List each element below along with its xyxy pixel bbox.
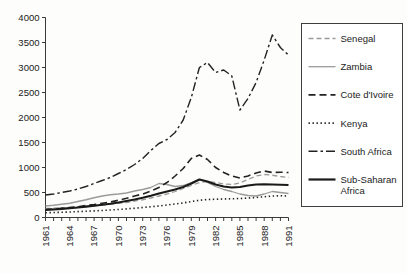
x-tick-label: 1979 bbox=[186, 226, 197, 247]
x-tick-label: 1976 bbox=[161, 226, 172, 247]
x-axis-tick-labels: 1961196419671970197319761979198219851988… bbox=[40, 226, 294, 247]
x-tick-label: 1967 bbox=[88, 226, 99, 247]
y-tick-label: 1000 bbox=[18, 162, 39, 173]
chart-legend: SenegalZambiaCote d'IvoireKenyaSouth Afr… bbox=[302, 24, 403, 207]
series-line bbox=[46, 196, 289, 213]
legend-label: Senegal bbox=[341, 33, 376, 44]
x-tick-label: 1985 bbox=[234, 226, 245, 247]
legend-label: South Africa bbox=[341, 146, 393, 157]
y-tick-label: 2000 bbox=[18, 112, 39, 123]
x-tick-label: 1973 bbox=[137, 226, 148, 247]
x-tick-label: 1991 bbox=[283, 226, 294, 247]
x-tick-label: 1982 bbox=[210, 226, 221, 247]
y-tick-label: 1500 bbox=[18, 137, 39, 148]
y-axis-tick-labels: 05001000150020002500300035004000 bbox=[18, 12, 39, 223]
series-line bbox=[46, 180, 289, 207]
y-tick-label: 2500 bbox=[18, 87, 39, 98]
y-tick-label: 3000 bbox=[18, 62, 39, 73]
data-series-layer bbox=[46, 35, 289, 213]
chart-axes bbox=[42, 18, 289, 222]
chart-figure: 05001000150020002500300035004000 1961196… bbox=[0, 0, 407, 273]
x-tick-label: 1988 bbox=[259, 226, 270, 247]
line-chart: 05001000150020002500300035004000 1961196… bbox=[0, 0, 407, 273]
y-tick-label: 3500 bbox=[18, 37, 39, 48]
x-tick-label: 1961 bbox=[40, 226, 51, 247]
x-tick-label: 1964 bbox=[64, 226, 75, 247]
y-tick-label: 4000 bbox=[18, 12, 39, 23]
x-tick-label: 1970 bbox=[113, 226, 124, 247]
legend-label: Cote d'Ivoire bbox=[341, 89, 394, 100]
legend-label: Sub-Saharan bbox=[341, 174, 397, 185]
y-tick-label: 500 bbox=[24, 187, 40, 198]
legend-label: Zambia bbox=[341, 61, 373, 72]
legend-label-continued: Africa bbox=[341, 185, 366, 196]
legend-label: Kenya bbox=[341, 118, 369, 129]
series-line bbox=[46, 35, 289, 195]
series-line bbox=[46, 155, 289, 210]
y-tick-label: 0 bbox=[34, 212, 39, 223]
